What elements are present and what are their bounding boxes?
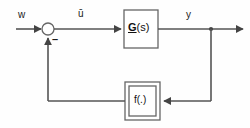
- diagram-vector-layer: [0, 0, 250, 128]
- signal-label-w: w: [18, 10, 25, 20]
- feedback-sign-label: –: [52, 34, 58, 45]
- signal-label-u-bar: ū: [78, 9, 84, 19]
- plant-label-vector-part: G: [128, 21, 137, 33]
- plant-label-argument-part: (s): [137, 21, 150, 33]
- signal-label-y: y: [186, 10, 191, 20]
- block-diagram-canvas: w ū y – G(s) f(.): [0, 0, 250, 128]
- plant-block-label: G(s): [128, 22, 149, 33]
- nonlinear-feedback-block-label: f(.): [134, 95, 146, 105]
